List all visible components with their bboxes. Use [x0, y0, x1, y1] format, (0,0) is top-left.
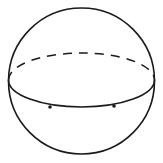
point-b	[112, 104, 116, 108]
sphere-diagram	[0, 0, 163, 163]
equator-front	[9, 80, 155, 107]
sphere-outline	[9, 8, 155, 154]
equator-back-dashed	[9, 53, 155, 80]
point-a	[48, 105, 52, 109]
